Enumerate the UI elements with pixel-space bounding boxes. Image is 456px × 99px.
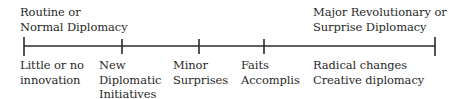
- point-label-radical-changes: Radical changes Creative diplomacy: [313, 58, 424, 87]
- point-label-minor-surprises: Minor Surprises: [173, 58, 228, 87]
- point-label-line: Creative diplomacy: [313, 73, 424, 88]
- point-label-line: Radical changes: [313, 58, 424, 73]
- point-label-line: Surprises: [173, 73, 228, 88]
- point-label-line: Minor: [173, 58, 228, 73]
- point-label-line: Little or no: [20, 58, 84, 73]
- point-label-little-innovation: Little or no innovation: [20, 58, 84, 87]
- point-label-line: Accomplis: [241, 73, 300, 88]
- point-label-line: Diplomatic: [99, 73, 161, 88]
- point-label-line: Faits: [241, 58, 300, 73]
- point-label-line: New: [99, 58, 161, 73]
- point-label-line: Initiatives: [99, 87, 161, 99]
- point-label-faits-accomplis: Faits Accomplis: [241, 58, 300, 87]
- point-label-new-initiatives: New Diplomatic Initiatives: [99, 58, 161, 99]
- point-label-line: innovation: [20, 73, 84, 88]
